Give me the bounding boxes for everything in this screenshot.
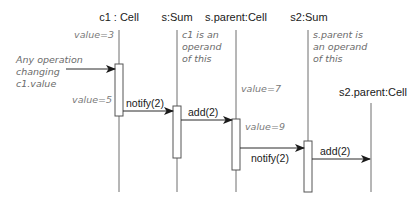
activation-s2 [304,141,312,192]
c1-value-after: value=5 [72,94,112,105]
s-parent-value-before: value=7 [241,83,281,94]
message-label-add-2: add(2) [320,145,350,157]
s-parent-value-after: value=9 [245,121,285,132]
activation-c1 [115,64,123,116]
participant-c1: c1 : Cell [99,11,139,23]
activation-s [173,106,181,158]
participant-s2: s2:Sum [290,11,327,23]
trigger-note: Any operation changing c1.value [15,54,86,89]
message-label-add-1: add(2) [188,106,218,118]
message-label-notify-2: notify(2) [251,152,289,164]
s-operand-note: c1 is an operand of this [182,29,225,64]
message-label-notify-1: notify(2) [126,97,164,109]
activation-s-parent [232,119,240,170]
participant-s2-parent: s2.parent:Cell [339,86,407,98]
sequence-diagram: c1 : Cell s:Sum s.parent:Cell s2:Sum s2.… [0,0,417,202]
participant-s-parent: s.parent:Cell [205,11,267,23]
c1-value-before: value=3 [74,29,114,40]
s2-operand-note: s.parent is an operand of this [313,29,370,64]
participant-s: s:Sum [161,11,192,23]
